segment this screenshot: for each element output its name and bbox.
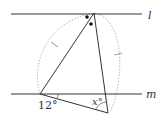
- line-m-label: m: [146, 88, 156, 101]
- line-l-label: l: [148, 9, 152, 22]
- angle-label-12: 12°: [38, 99, 58, 112]
- tick-mark-left: [51, 42, 58, 47]
- angle-label-x: x°: [92, 96, 103, 107]
- tick-mark-right: [114, 53, 122, 55]
- angle-dot-2: [89, 22, 93, 26]
- geometry-diagram: l m 12° x°: [0, 0, 165, 122]
- angle-dot-1: [85, 15, 89, 19]
